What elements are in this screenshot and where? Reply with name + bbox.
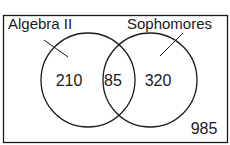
intersection-count: 85 bbox=[104, 72, 122, 89]
venn-diagram: Algebra II Sophomores 210 85 320 985 bbox=[0, 0, 230, 145]
algebra-ii-only-count: 210 bbox=[56, 72, 83, 89]
sophomores-label: Sophomores bbox=[127, 15, 212, 32]
outside-count: 985 bbox=[191, 120, 218, 137]
sophomores-only-count: 320 bbox=[145, 72, 172, 89]
algebra-ii-label: Algebra II bbox=[8, 15, 72, 32]
